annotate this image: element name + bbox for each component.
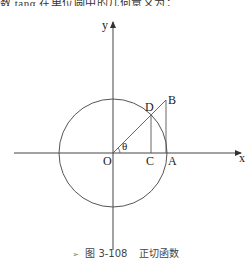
tangent-unit-circle-diagram: y x O C A D B θ bbox=[0, 0, 251, 269]
point-d-label: D bbox=[145, 100, 154, 114]
origin-label: O bbox=[103, 154, 112, 168]
point-b-label: B bbox=[168, 93, 176, 107]
angle-theta-label: θ bbox=[122, 140, 127, 152]
figure-number: 图 3-108 bbox=[85, 248, 127, 259]
figure-title: 正切函数 bbox=[139, 248, 179, 259]
point-c-label: C bbox=[146, 154, 154, 168]
y-axis-label: y bbox=[102, 18, 108, 32]
terminal-side-ray bbox=[113, 100, 166, 153]
caption-bullet-icon: ➢ bbox=[72, 250, 79, 259]
point-a-label: A bbox=[168, 154, 177, 168]
angle-arc bbox=[118, 148, 120, 153]
x-axis-label: x bbox=[239, 151, 245, 165]
figure-caption: ➢ 图 3-108 正切函数 bbox=[0, 245, 251, 260]
